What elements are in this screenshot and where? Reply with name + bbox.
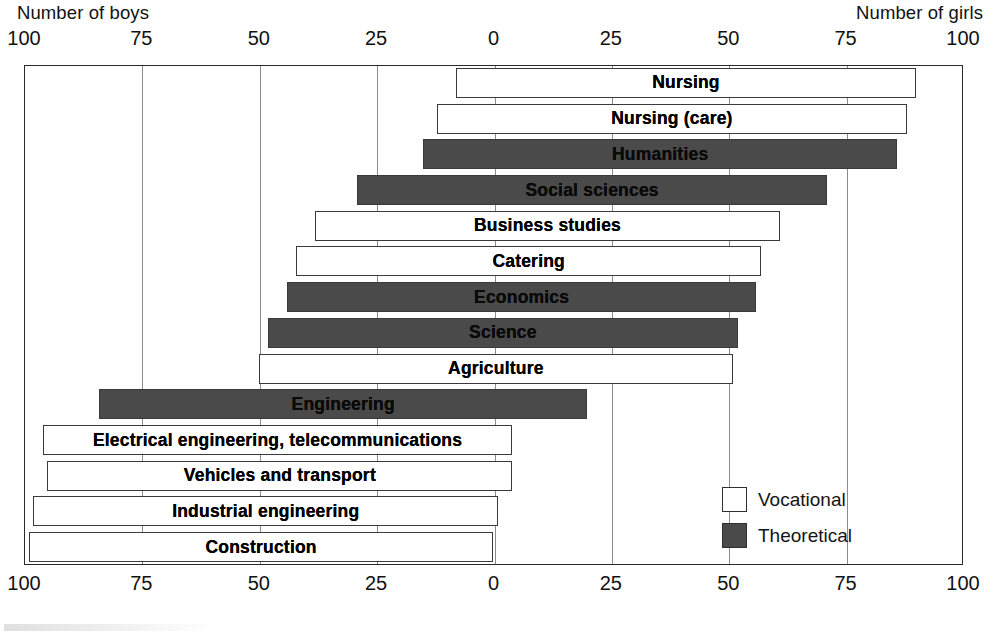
bar-nursing-care: Nursing (care) [437, 104, 907, 134]
bar-label: Nursing [652, 72, 720, 93]
bar-humanities: Humanities [423, 139, 897, 169]
bar-science: Science [268, 318, 738, 348]
bar-label: Electrical engineering, telecommunicatio… [93, 430, 462, 451]
bar-economics: Economics [287, 282, 757, 312]
bar-label: Construction [205, 537, 316, 558]
tick-label: 50 [717, 572, 739, 595]
tick-label: 50 [248, 572, 270, 595]
bar-industrial-engineering: Industrial engineering [33, 496, 498, 526]
bar-label: Nursing (care) [611, 108, 732, 129]
legend-item-vocational: Vocational [722, 487, 852, 512]
bar-label: Catering [492, 251, 565, 272]
tick-label: 75 [130, 572, 152, 595]
bar-label: Engineering [292, 394, 395, 415]
legend-label-theoretical: Theoretical [758, 525, 852, 547]
bar-electrical-engineering-telecommunications: Electrical engineering, telecommunicatio… [43, 425, 513, 455]
bar-label: Agriculture [448, 358, 544, 379]
bar-nursing: Nursing [456, 68, 916, 98]
chart-root: Number of boys Number of girls 100755025… [0, 0, 997, 632]
bar-engineering: Engineering [99, 389, 587, 419]
bar-construction: Construction [29, 532, 494, 562]
bar-label: Industrial engineering [172, 501, 359, 522]
bar-label: Social sciences [525, 180, 658, 201]
bar-catering: Catering [296, 246, 761, 276]
bar-business-studies: Business studies [315, 211, 780, 241]
legend-item-theoretical: Theoretical [722, 523, 852, 548]
tick-label: 25 [600, 572, 622, 595]
tick-label: 25 [365, 572, 387, 595]
bar-vehicles-and-transport: Vehicles and transport [47, 461, 512, 491]
bar-label: Economics [474, 287, 569, 308]
tick-label: 100 [7, 572, 40, 595]
chart-legend: Vocational Theoretical [722, 487, 852, 548]
tick-label: 0 [488, 572, 499, 595]
legend-swatch-theoretical-icon [722, 523, 747, 548]
bar-label: Humanities [612, 144, 708, 165]
tick-label: 75 [835, 572, 857, 595]
tick-label: 100 [946, 572, 979, 595]
bar-label: Business studies [474, 215, 621, 236]
bar-label: Vehicles and transport [184, 465, 376, 486]
bar-label: Science [469, 322, 537, 343]
bar-social-sciences: Social sciences [357, 175, 827, 205]
scan-artifact [4, 624, 304, 631]
legend-swatch-vocational-icon [722, 487, 747, 512]
bar-agriculture: Agriculture [259, 354, 733, 384]
legend-label-vocational: Vocational [758, 489, 846, 511]
